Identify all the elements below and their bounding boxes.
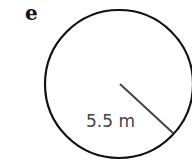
radius-label: 5.5 m bbox=[86, 111, 135, 131]
circle-diagram: 5.5 m bbox=[0, 0, 192, 167]
circle-outline bbox=[45, 10, 192, 158]
